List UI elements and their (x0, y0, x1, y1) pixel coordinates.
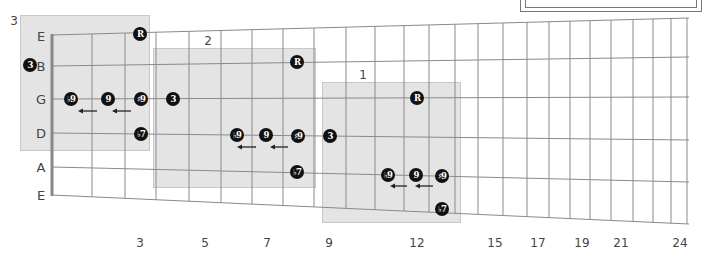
note-dot: 3 (23, 58, 37, 72)
fret-marker-19: 19 (574, 236, 589, 250)
position-label-3: 3 (10, 15, 18, 27)
note-dot: ♭7 (435, 202, 449, 216)
arrow-left-icon (112, 109, 131, 114)
position-label-2: 2 (204, 35, 212, 47)
note-dot: R (290, 55, 304, 69)
fret-marker-7: 7 (263, 236, 271, 250)
note-dot: R (133, 27, 147, 41)
position-label-1: 1 (359, 69, 367, 81)
note-dot: 9 (409, 168, 423, 182)
note-dot: ♯9 (291, 129, 305, 143)
fret-marker-3: 3 (136, 236, 144, 250)
arrow-left-icon (415, 184, 433, 189)
string-line-4 (52, 167, 689, 182)
fret-marker-5: 5 (201, 236, 209, 250)
arrow-left-icon (78, 109, 97, 114)
fret-marker-15: 15 (487, 236, 502, 250)
string-label-a: A (37, 161, 46, 174)
fret-marker-24: 24 (672, 236, 687, 250)
string-line-5 (52, 195, 689, 224)
note-dot: ♭9 (230, 128, 244, 142)
string-label-high-e: E (37, 30, 45, 43)
note-dot: 3 (166, 92, 180, 106)
fret-marker-9: 9 (325, 236, 333, 250)
note-dot: 9 (101, 92, 115, 106)
note-dot: R (410, 91, 424, 105)
string-label-low-e: E (37, 189, 45, 202)
string-label-d: D (36, 127, 46, 140)
arrow-left-icon (270, 145, 288, 150)
fret-marker-12: 12 (409, 236, 424, 250)
note-dot: ♭7 (134, 127, 148, 141)
arrow-left-icon (237, 145, 256, 150)
string-label-g: G (36, 93, 46, 106)
string-line-1 (52, 57, 689, 66)
note-dot: ♯9 (134, 92, 148, 106)
fret-marker-17: 17 (530, 236, 545, 250)
note-dot: ♭7 (290, 165, 304, 179)
note-dot: ♭9 (381, 168, 395, 182)
string-line-0 (52, 18, 689, 35)
note-dot: 9 (259, 128, 273, 142)
note-dot: 3 (323, 129, 337, 143)
note-dot: ♯9 (435, 169, 449, 183)
note-dot: ♭9 (64, 92, 78, 106)
fretboard-grid (0, 0, 704, 261)
string-label-b: B (37, 60, 46, 73)
fret-marker-21: 21 (613, 236, 628, 250)
fretboard-diagram: E B G D A E 3 5 7 9 12 15 17 19 21 24 32… (0, 0, 704, 261)
